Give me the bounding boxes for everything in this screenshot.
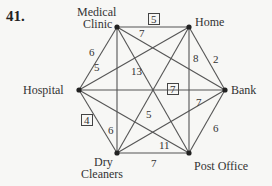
weight-hospital-dry: 4 — [81, 114, 93, 126]
weight-clinic-hospital: 6 — [89, 47, 95, 58]
weight-clinic-bank: 7 — [139, 28, 145, 39]
edge-clinic-hospital — [79, 27, 117, 90]
label-bank: Bank — [231, 84, 256, 96]
weight-bank-dry: 7 — [196, 97, 202, 108]
weight-home-hospital: 5 — [94, 62, 100, 73]
vertex-dry-cleaners — [114, 150, 119, 155]
vertex-home — [186, 24, 191, 29]
weight-clinic-home: 5 — [148, 13, 160, 25]
label-hospital: Hospital — [23, 84, 64, 96]
weight-home-bank: 2 — [213, 54, 219, 65]
vertex-hospital — [76, 87, 81, 92]
weight-dry-post: 7 — [151, 158, 157, 169]
label-cleaners: Cleaners — [81, 168, 123, 180]
label-clinic: Clinic — [83, 18, 112, 30]
weight-home-post: 8 — [193, 53, 199, 64]
edge-bank-post — [189, 90, 225, 153]
weight-dry-clinic: 6 — [108, 125, 114, 136]
vertex-post-office — [186, 150, 191, 155]
vertex-medical-clinic — [114, 24, 119, 29]
weight-hospital-post: 11 — [159, 140, 170, 151]
weight-bank-post: 6 — [213, 123, 219, 134]
label-home: Home — [195, 16, 224, 28]
weight-hospital-bank: 7 — [167, 83, 179, 95]
weight-clinic-dry: 13 — [131, 66, 142, 77]
vertex-bank — [222, 87, 227, 92]
weight-dry-home: 5 — [146, 109, 152, 120]
label-post-office: Post Office — [194, 160, 248, 172]
